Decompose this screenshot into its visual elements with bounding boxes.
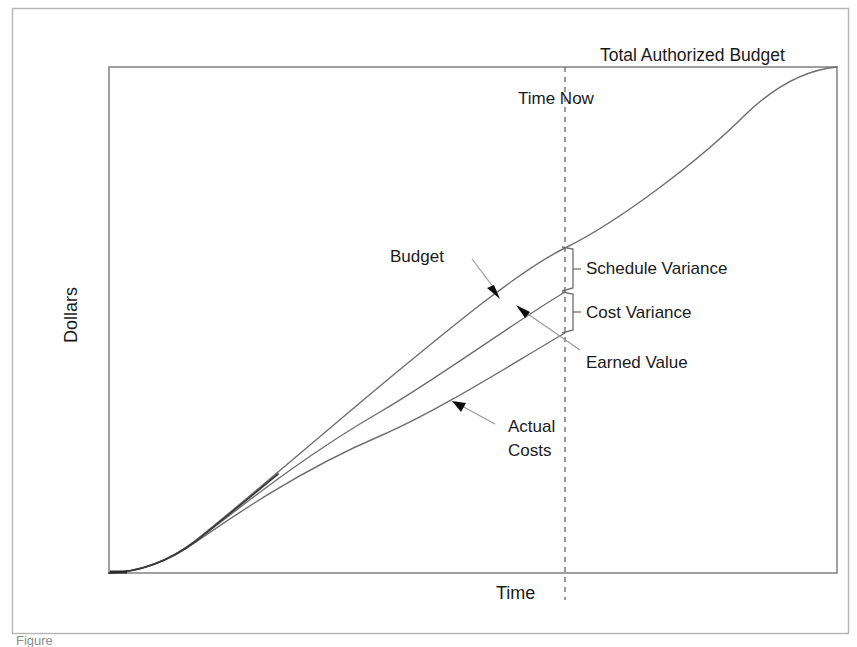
budget-label: Budget — [390, 247, 444, 266]
actual-costs-curve — [109, 333, 565, 573]
budget-curve — [109, 67, 837, 573]
earned-value-label: Earned Value — [586, 353, 688, 372]
figure-caption: Figure — [16, 633, 53, 647]
actual-costs-leader-line — [462, 406, 495, 424]
actual-costs-label-line1: Actual — [508, 417, 555, 436]
cost-variance-bracket — [562, 292, 573, 333]
time-now-label: Time Now — [518, 89, 595, 108]
y-axis-label: Dollars — [61, 287, 81, 343]
x-axis-label: Time — [496, 583, 535, 603]
earned-value-chart: Total Authorized Budget Time Now Budget … — [0, 0, 857, 647]
page-border — [13, 9, 849, 634]
schedule-variance-label: Schedule Variance — [586, 259, 727, 278]
figure-root: Total Authorized Budget Time Now Budget … — [0, 0, 857, 647]
cost-variance-label: Cost Variance — [586, 303, 692, 322]
schedule-variance-bracket — [562, 247, 573, 291]
actual-costs-label-line2: Costs — [508, 441, 551, 460]
chart-title: Total Authorized Budget — [600, 45, 785, 65]
actual-costs-arrow-icon — [452, 401, 466, 412]
curve-origin-segment — [109, 474, 278, 573]
earned-value-curve — [109, 292, 565, 573]
plot-area-frame — [109, 67, 837, 573]
